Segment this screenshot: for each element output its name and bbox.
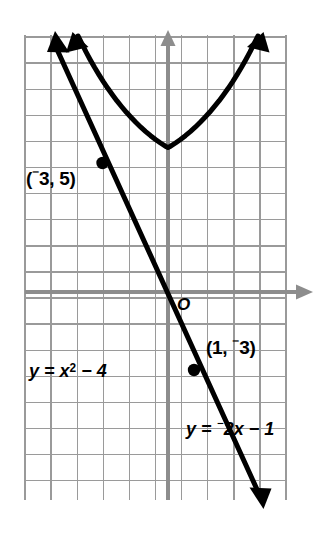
point-a-negative-sign: ⁻ — [32, 168, 39, 182]
point-label-a: (⁻3, 5) — [26, 168, 76, 188]
point-marker-b — [188, 364, 200, 376]
x-axis-arrowhead — [296, 285, 313, 300]
parabola-eq-lhs: y = x — [29, 361, 70, 381]
point-b-negative-sign: ⁻ — [232, 337, 239, 351]
origin-label: O — [177, 296, 190, 313]
line-eq-lhs: y = — [186, 419, 217, 439]
line-arrowhead-upper — [47, 31, 70, 53]
graph-figure: (⁻3, 5) (1, ⁻3) y = x2 − 4 y = ⁻2x − 1 O — [0, 0, 336, 535]
line-eq-rhs: 2x − 1 — [224, 419, 275, 439]
point-b-coord-x: (1, — [206, 337, 232, 358]
parabola-equation-label: y = x2 − 4 — [29, 362, 107, 380]
point-marker-a — [96, 157, 108, 169]
point-a-coords: 3, 5) — [39, 168, 76, 189]
y-axis-arrowhead — [161, 30, 176, 46]
point-label-b: (1, ⁻3) — [206, 337, 256, 357]
coordinate-plane-svg — [0, 0, 336, 535]
line-arrowhead-lower — [250, 488, 272, 510]
point-b-coord-y: 3) — [239, 337, 255, 358]
line-equation-label: y = ⁻2x − 1 — [186, 420, 274, 438]
parabola-eq-rhs: − 4 — [76, 361, 107, 381]
line-eq-negative-sign: ⁻ — [217, 420, 224, 433]
intersection-points — [96, 157, 200, 376]
